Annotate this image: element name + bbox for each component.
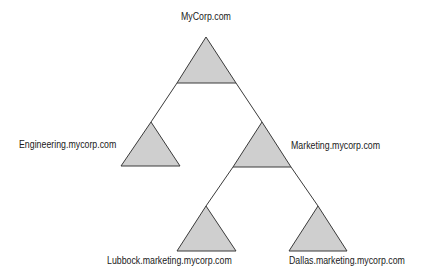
- label-dallas-domain: Dallas.marketing.mycorp.com: [289, 255, 405, 267]
- domain-triangle-icon-lubbock: [177, 206, 236, 251]
- domain-triangle-icon-engineering: [121, 122, 180, 166]
- label-root-domain: MyCorp.com: [181, 11, 231, 23]
- edge-root-marketing: [236, 83, 262, 122]
- label-engineering-domain: Engineering.mycorp.com: [19, 139, 116, 151]
- edge-root-engineering: [151, 83, 177, 122]
- domain-triangle-icon-root: [177, 37, 236, 83]
- edge-marketing-lubbock: [206, 167, 233, 206]
- domain-triangle-icon-marketing: [233, 122, 291, 167]
- edge-marketing-dallas: [291, 167, 318, 206]
- domain-triangle-icon-dallas: [289, 206, 347, 251]
- label-marketing-domain: Marketing.mycorp.com: [291, 140, 380, 152]
- label-lubbock-domain: Lubbock.marketing.mycorp.com: [107, 255, 232, 267]
- domain-tree-diagram: MyCorp.com Engineering.mycorp.com Market…: [0, 0, 426, 279]
